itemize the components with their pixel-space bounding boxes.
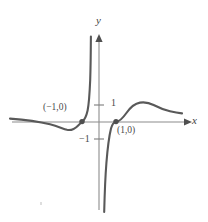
scan-artifact-speck	[40, 202, 42, 205]
point-label-minus-one-zero: (−1,0)	[43, 103, 67, 113]
curve-right-branch	[104, 102, 182, 212]
point-marker-one-zero	[113, 119, 118, 124]
point-marker-minus-one-zero	[79, 119, 84, 124]
y-axis-arrowhead	[95, 34, 102, 42]
point-label-one-zero: (1,0)	[117, 126, 135, 136]
x-axis-arrowhead	[184, 118, 192, 125]
y-tick-label-1: 1	[111, 98, 116, 108]
plot-canvas	[0, 0, 208, 222]
graph-figure: y x 1 −1 (−1,0) (1,0)	[0, 0, 208, 222]
y-tick-label-minus-1: −1	[79, 134, 90, 144]
y-axis-label: y	[96, 15, 101, 26]
curve-left-branch	[10, 37, 91, 131]
x-axis-label: x	[192, 115, 197, 126]
